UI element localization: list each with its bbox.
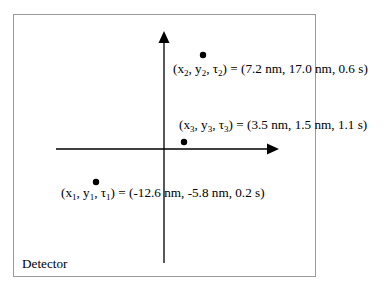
detector-diagram: (x1, y1, τ1) = (-12.6 nm, -5.8 nm, 0.2 s… — [0, 0, 384, 292]
x-axis — [56, 144, 279, 155]
event-dot-2 — [200, 52, 206, 58]
x-axis-arrow-icon — [267, 144, 279, 155]
event-label-3: (x3, y3, τ3) = (3.5 nm, 1.5 nm, 1.1 s) — [179, 117, 367, 134]
event-label-2: (x2, y2, τ2) = (7.2 nm, 17.0 nm, 0.6 s) — [173, 61, 368, 78]
y-axis — [159, 31, 170, 263]
event-point-1: (x1, y1, τ1) = (-12.6 nm, -5.8 nm, 0.2 s… — [61, 179, 265, 202]
event-dot-3 — [181, 139, 187, 145]
event-label-1: (x1, y1, τ1) = (-12.6 nm, -5.8 nm, 0.2 s… — [61, 185, 265, 202]
detector-label: Detector — [22, 256, 68, 271]
y-axis-arrow-icon — [159, 31, 170, 43]
event-point-2: (x2, y2, τ2) = (7.2 nm, 17.0 nm, 0.6 s) — [173, 52, 368, 78]
event-point-3: (x3, y3, τ3) = (3.5 nm, 1.5 nm, 1.1 s) — [179, 117, 367, 145]
